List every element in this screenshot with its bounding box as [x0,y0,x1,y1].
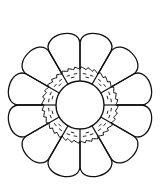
stitch-mark [52,96,53,99]
stitch-mark [74,136,78,137]
segment-divider [92,72,99,84]
segment-divider [61,72,68,84]
stitch-mark [90,75,93,76]
segment-divider [101,86,113,93]
petal [22,47,61,86]
petal [99,47,138,86]
stitch-mark [111,99,112,103]
stitch-mark [83,74,87,75]
segment-divider [47,86,59,93]
center-circle [56,81,104,129]
segment-divider [101,117,113,124]
petal [99,124,138,163]
segment-divider [61,126,68,138]
stitch-mark [83,136,87,137]
stitch-mark [90,134,93,135]
stitch-mark [98,79,101,81]
stitch-mark [104,123,106,126]
stitch-mark [107,111,108,114]
stitch-mark [67,75,70,76]
stitch-mark [59,124,62,127]
stitch-mark [50,115,51,118]
stitch-mark [71,77,74,78]
stitch-mark [52,111,53,114]
petal [22,124,61,163]
stitch-mark [59,79,62,81]
flower-drawing [0,0,165,190]
stitch-mark [54,123,56,126]
petal [112,105,152,137]
stitch-mark [59,129,62,131]
stitch-mark [67,134,70,135]
stitch-mark [109,92,110,95]
stitch-mark [86,77,89,78]
petal [80,33,112,73]
stitch-mark [49,99,50,103]
segment-divider [92,126,99,138]
petal [48,137,80,177]
flower-illustration [0,0,165,190]
petal [8,73,48,105]
stitch-mark [99,84,102,87]
stitch-mark [54,84,56,87]
stitch-mark [74,74,78,75]
stitch-mark [104,84,106,87]
segment-divider [47,117,59,124]
stitch-mark [98,129,101,131]
stitch-mark [109,115,110,118]
stitch-mark [86,132,89,133]
stitch-mark [111,108,112,112]
stitch-mark [49,108,50,112]
stitch-mark [50,92,51,95]
stitch-mark [71,132,74,133]
stitch-mark [107,96,108,99]
stitch-mark [99,124,102,127]
stitch-mark [59,84,62,87]
